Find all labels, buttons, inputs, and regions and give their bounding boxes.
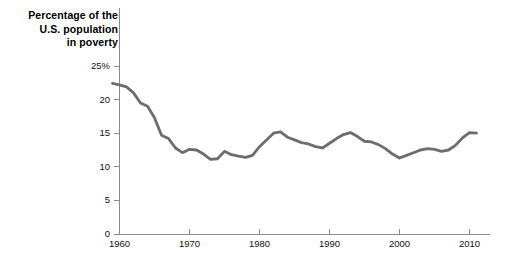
poverty-rate-line <box>113 83 477 159</box>
plot-area: 0510152025% 196019701980199020002010 <box>0 0 515 256</box>
series-line-layer <box>0 0 515 256</box>
poverty-rate-chart: Percentage of the U.S. population in pov… <box>0 0 515 256</box>
